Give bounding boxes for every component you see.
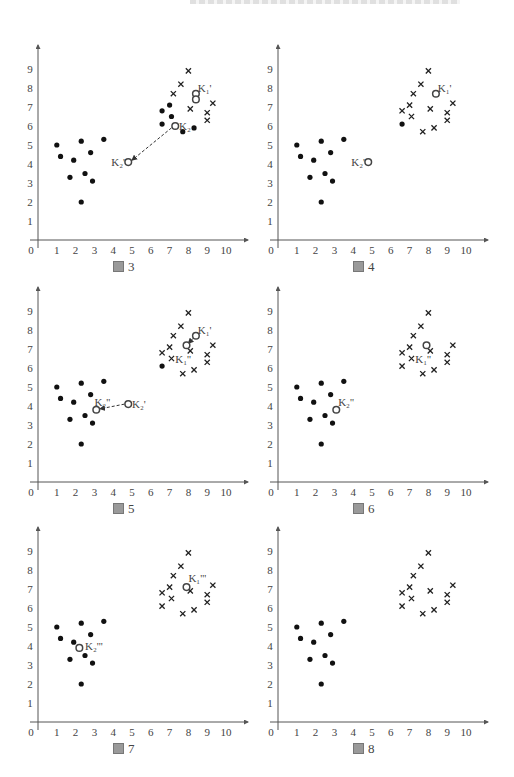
- svg-text:0: 0: [268, 726, 274, 738]
- series-dot: [294, 619, 346, 687]
- cross-point: [399, 590, 404, 595]
- dot-point: [294, 624, 299, 629]
- svg-text:5: 5: [267, 621, 273, 633]
- figure-number: 8: [368, 741, 375, 756]
- svg-text:9: 9: [444, 726, 450, 738]
- svg-text:1: 1: [294, 726, 300, 738]
- cross-point: [411, 573, 416, 578]
- svg-text:4: 4: [267, 640, 273, 652]
- series-cross: [399, 550, 455, 616]
- svg-text:6: 6: [388, 726, 394, 738]
- tick-labels: 012345678910123456789: [267, 545, 472, 738]
- cross-point: [407, 585, 412, 590]
- figure-caption: 8: [353, 741, 375, 757]
- dot-point: [330, 661, 335, 666]
- dot-point: [319, 681, 324, 686]
- svg-text:7: 7: [267, 583, 273, 595]
- dot-point: [298, 636, 303, 641]
- cross-point: [418, 564, 423, 569]
- dot-point: [311, 640, 316, 645]
- svg-text:5: 5: [369, 726, 375, 738]
- cross-point: [450, 583, 455, 588]
- dot-point: [307, 657, 312, 662]
- cross-point: [409, 596, 414, 601]
- cross-point: [426, 550, 431, 555]
- cross-point: [445, 592, 450, 597]
- cross-point: [428, 588, 433, 593]
- svg-text:2: 2: [313, 726, 319, 738]
- svg-text:7: 7: [407, 726, 413, 738]
- svg-text:4: 4: [350, 726, 356, 738]
- dot-point: [328, 632, 333, 637]
- cross-point: [399, 604, 404, 609]
- scatter-plot-fig8: 012345678910123456789: [0, 0, 514, 777]
- axes: [270, 527, 488, 730]
- svg-text:3: 3: [267, 659, 273, 671]
- svg-text:3: 3: [332, 726, 338, 738]
- dot-point: [341, 619, 346, 624]
- svg-text:2: 2: [267, 678, 273, 690]
- svg-text:1: 1: [267, 697, 273, 709]
- figure-char-icon: [353, 743, 364, 754]
- svg-text:10: 10: [461, 726, 473, 738]
- cross-point: [420, 611, 425, 616]
- svg-text:8: 8: [267, 564, 273, 576]
- svg-text:9: 9: [267, 545, 273, 557]
- dot-point: [319, 621, 324, 626]
- svg-text:6: 6: [267, 602, 273, 614]
- dot-point: [322, 653, 327, 658]
- svg-text:8: 8: [426, 726, 432, 738]
- cross-point: [431, 607, 436, 612]
- cross-point: [445, 600, 450, 605]
